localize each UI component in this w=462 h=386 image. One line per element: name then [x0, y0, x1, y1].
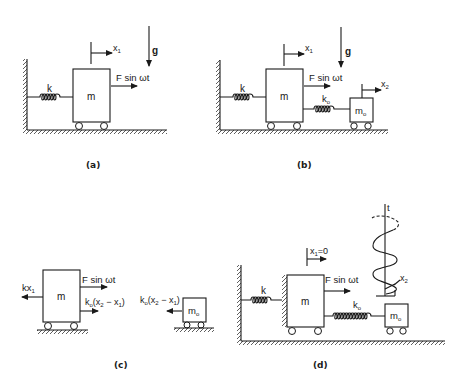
displacement-x2-b: x2	[362, 79, 390, 98]
panel-c: m kx1 F sin ωt ko(x2 − x1) mo ko(x2 − x1…	[22, 270, 214, 370]
wheel-icon	[101, 123, 108, 130]
force-arrow-a: F sin ωt	[111, 72, 150, 86]
wheel-icon	[315, 328, 322, 335]
svg-text:g: g	[152, 45, 158, 56]
svg-text:F sin ωt: F sin ωt	[116, 72, 150, 83]
mass-label-c: m	[57, 291, 65, 302]
mass-label-a: m	[87, 91, 95, 102]
svg-text:kx1: kx1	[22, 282, 36, 294]
time-response-plot-d: t x2	[372, 202, 409, 296]
caption-a: (a)	[86, 160, 100, 170]
displacement-x1-a: x1	[91, 42, 122, 64]
spring-k-d	[241, 297, 282, 303]
svg-text:x2: x2	[400, 273, 409, 284]
svg-text:ko(x2 − x1): ko(x2 − x1)	[140, 295, 180, 306]
svg-text:F sin ωt: F sin ωt	[82, 274, 116, 285]
wheel-icon	[387, 328, 393, 334]
svg-text:x2: x2	[381, 79, 390, 90]
svg-text:F sin ωt: F sin ωt	[325, 274, 359, 285]
force-arrow-c: F sin ωt	[80, 274, 116, 287]
wheel-icon	[76, 123, 83, 130]
caption-d: (d)	[313, 360, 328, 370]
spring-k-b	[220, 94, 266, 100]
svg-text:x1: x1	[305, 43, 314, 54]
wheel-icon	[400, 328, 406, 334]
wheel-icon	[198, 322, 204, 328]
panel-d: k m x1=0 F sin ωt ko mo t	[237, 202, 445, 370]
spring-label-d: k	[261, 285, 267, 296]
wheel-icon	[45, 323, 52, 330]
force-arrow-d: F sin ωt	[324, 274, 359, 291]
panel-a: k m x1 g F sin ωt (a)	[23, 26, 167, 170]
vibration-absorber-figure: k m x1 g F sin ωt (a) k	[0, 0, 462, 386]
gravity-arrow-b: g	[341, 27, 351, 67]
caption-c: (c)	[114, 360, 128, 370]
displacement-x1-b: x1	[284, 43, 314, 66]
svg-text:F sin ωt: F sin ωt	[309, 72, 343, 83]
svg-text:ko: ko	[322, 93, 331, 105]
panel-b: k m x1 g F sin ωt ko mo x2 (b	[216, 27, 390, 170]
mass-label-b: m	[280, 91, 288, 102]
coupling-force-on-m0: ko(x2 − x1)	[140, 295, 182, 311]
svg-text:x1: x1	[113, 43, 122, 54]
svg-text:t: t	[387, 202, 390, 213]
wheel-icon	[71, 323, 78, 330]
wheel-icon	[294, 123, 301, 130]
svg-text:ko: ko	[353, 299, 362, 311]
caption-b: (b)	[297, 160, 312, 170]
coupling-force-on-m: ko(x2 − x1)	[80, 297, 125, 311]
spring-k0-d: ko	[324, 299, 385, 319]
spring-force-kx1: kx1	[22, 282, 43, 297]
gravity-arrow-a: g	[149, 26, 158, 66]
clamp-hatch-d	[282, 275, 287, 327]
wheel-icon	[184, 322, 190, 328]
wheel-icon	[289, 328, 296, 335]
spring-label-a: k	[47, 83, 53, 94]
svg-text:g: g	[345, 46, 351, 57]
svg-text:x1=0: x1=0	[310, 246, 328, 257]
mass-label-d: m	[301, 296, 309, 307]
spring-k-a	[27, 94, 73, 100]
displacement-x1-zero-d: x1=0	[307, 246, 328, 266]
wheel-icon	[365, 123, 371, 129]
force-arrow-b: F sin ωt	[304, 72, 343, 86]
spring-label-b: k	[240, 83, 246, 94]
svg-text:ko(x2 − x1): ko(x2 − x1)	[85, 297, 125, 308]
spring-k0-b: ko	[303, 93, 350, 112]
wheel-icon	[268, 123, 275, 130]
wheel-icon	[351, 123, 357, 129]
